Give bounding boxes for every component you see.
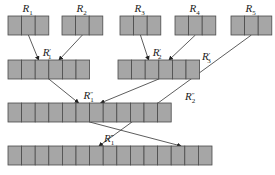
run-cell: [130, 103, 144, 122]
arrow-R5-to-R1ppp: [99, 35, 251, 146]
run-cell: [89, 16, 103, 35]
run-cell: [130, 146, 144, 165]
run-cell: [35, 103, 49, 122]
run-cell: [117, 103, 131, 122]
run-cell: [158, 146, 172, 165]
run-cell: [120, 16, 134, 35]
label-R4: R4: [188, 2, 200, 17]
run-cell: [35, 146, 49, 165]
run-cell: [145, 60, 159, 79]
label-R1ppp: R‴1: [103, 132, 115, 147]
run-cell: [22, 60, 36, 79]
run-cell: [22, 103, 36, 122]
run-cell: [144, 103, 158, 122]
run-cell: [35, 16, 49, 35]
run-cell: [202, 16, 216, 35]
arrow-R2-to-R1p: [59, 35, 82, 60]
run-cell: [90, 146, 104, 165]
merge-tree-diagram: R1R2R3R4R5R′1R′2R″1R‴1R′3R″2: [0, 0, 275, 175]
label-R1: R1: [21, 2, 33, 17]
run-cell: [8, 146, 22, 165]
label-R3p: R′3: [201, 50, 211, 65]
run-boxes: [8, 16, 272, 165]
run-cell: [90, 103, 104, 122]
run-cell: [76, 60, 90, 79]
arrow-R2p-to-R1pp: [101, 79, 159, 103]
run-cell: [118, 60, 132, 79]
run-R3: [120, 16, 161, 35]
label-R3: R3: [133, 2, 145, 17]
run-cell: [189, 16, 203, 35]
run-cell: [8, 103, 22, 122]
arrow-R4-to-R2p: [169, 35, 195, 60]
label-R2p: R′2: [152, 46, 162, 61]
run-cell: [117, 146, 131, 165]
run-R5: [231, 16, 272, 35]
arrow-R1-to-R1p: [28, 35, 38, 60]
run-cell: [231, 16, 245, 35]
run-cell: [62, 60, 76, 79]
run-cell: [22, 146, 36, 165]
arrow-R1p-to-R1pp: [49, 79, 79, 103]
run-R1pp: [8, 103, 171, 122]
label-R5: R5: [244, 2, 256, 17]
run-cell: [172, 60, 186, 79]
run-cell: [132, 60, 146, 79]
label-R1p: R′1: [42, 46, 52, 61]
run-cell: [22, 16, 36, 35]
run-cell: [76, 103, 90, 122]
run-cell: [49, 146, 63, 165]
run-cell: [144, 146, 158, 165]
label-R2pp: R″2: [184, 90, 196, 105]
run-cell: [103, 146, 117, 165]
run-cell: [62, 16, 76, 35]
run-cell: [258, 16, 272, 35]
run-R2: [62, 16, 103, 35]
run-cell: [198, 146, 212, 165]
run-cell: [134, 16, 148, 35]
run-R2p: [118, 60, 200, 79]
run-cell: [8, 60, 22, 79]
run-cell: [171, 146, 185, 165]
run-cell: [245, 16, 259, 35]
run-cell: [147, 16, 161, 35]
run-cell: [8, 16, 22, 35]
run-R1ppp: [8, 146, 212, 165]
label-R1pp: R″1: [83, 89, 95, 104]
run-R1p: [8, 60, 90, 79]
label-R2: R2: [75, 2, 87, 17]
run-cell: [49, 103, 63, 122]
run-cell: [175, 16, 189, 35]
run-cell: [185, 146, 199, 165]
run-cell: [103, 103, 117, 122]
run-R4: [175, 16, 216, 35]
arrow-R3-to-R2p: [140, 35, 148, 60]
run-R1: [8, 16, 49, 35]
run-cell: [186, 60, 200, 79]
merge-arrows: [28, 35, 251, 146]
run-cell: [49, 60, 63, 79]
run-cell: [76, 16, 90, 35]
run-cell: [35, 60, 49, 79]
run-cell: [76, 146, 90, 165]
run-cell: [62, 146, 76, 165]
run-cell: [158, 103, 172, 122]
run-cell: [62, 103, 76, 122]
run-cell: [159, 60, 173, 79]
